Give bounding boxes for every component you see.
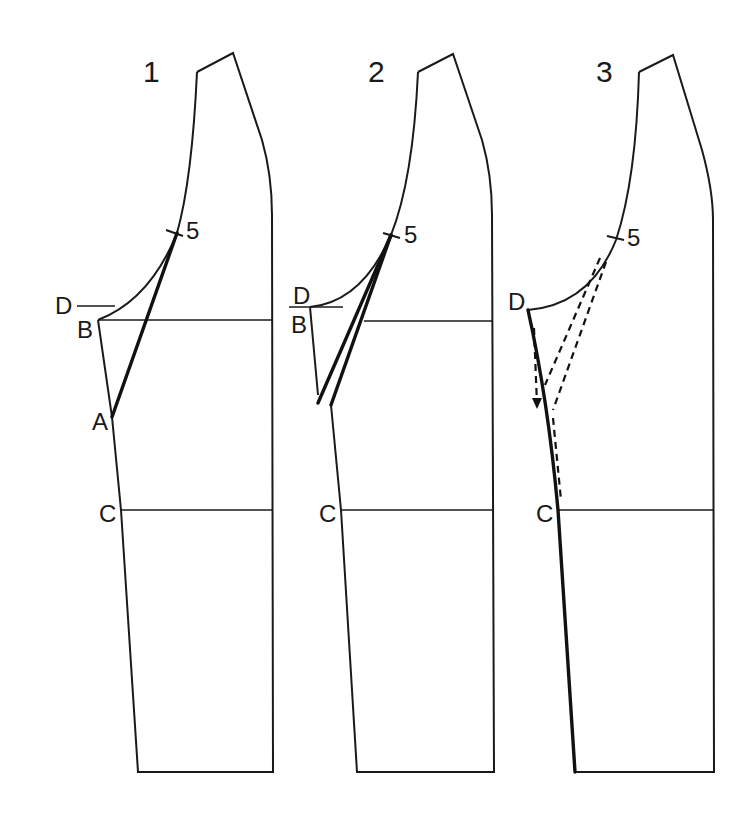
label-point-5: 5 [404,221,417,248]
dart-leg-1 [318,235,391,403]
panel-2: 2 5 D B C [289,54,494,772]
pattern-outline [575,55,714,772]
armhole-curve [528,72,639,310]
armhole-curve [98,72,197,320]
panel-number: 2 [368,55,385,88]
panel-3: 3 5 D C [508,55,714,772]
label-D: D [508,288,525,315]
pattern-outline [98,53,273,772]
label-C: C [99,500,116,527]
dart-line [112,233,177,417]
dashed-dart-leg-2 [553,262,606,410]
label-A: A [92,408,108,435]
pattern-outline [331,54,494,772]
pattern-diagram: 1 5 D B A C 2 [0,0,743,828]
armhole-curve [310,72,418,307]
dart-leg-2 [331,235,391,405]
dashed-dart-leg-1 [545,258,600,385]
panel-number: 1 [143,55,160,88]
label-C: C [536,500,553,527]
label-point-5: 5 [627,224,640,251]
label-point-5: 5 [186,217,199,244]
label-D: D [293,282,310,309]
panel-1: 1 5 D B A C [55,53,273,772]
arrow-head-icon [532,398,542,409]
panel-number: 3 [596,55,613,88]
label-B: B [291,311,307,338]
label-B: B [77,316,93,343]
label-C: C [319,500,336,527]
label-D: D [55,292,72,319]
front-edge-upper [310,307,318,395]
